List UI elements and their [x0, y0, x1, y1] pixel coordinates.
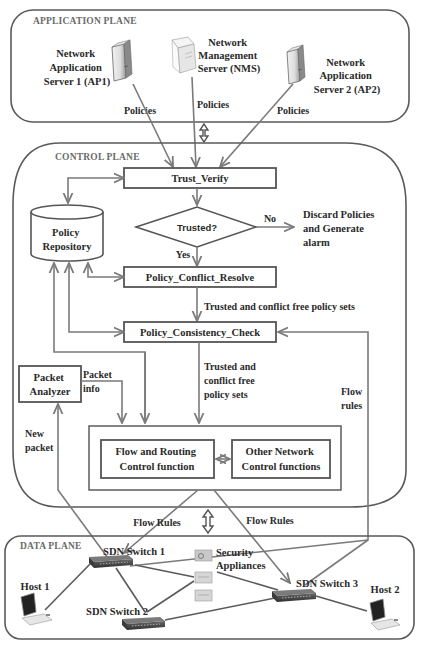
bidirectional-arrow-icon — [200, 124, 208, 142]
switch3-label: SDN Switch 3 — [296, 578, 358, 589]
application-plane: APPLICATION PLANE Network Application Se… — [11, 10, 409, 122]
policies-label-ap1: Policies — [124, 105, 156, 116]
nms-label: Network Management Server (NMS) — [198, 37, 261, 75]
flow-rules-right-label: Flow Rules — [246, 515, 294, 526]
ap1-label: Network Application Server 1 (AP1) — [44, 48, 111, 88]
desktop-computer-icon — [370, 599, 400, 630]
discard-policies-label: Discard Policies and Generate alarm — [303, 209, 377, 248]
no-label: No — [264, 213, 276, 224]
yes-label: Yes — [176, 249, 191, 260]
new-packet-label: New packet — [25, 428, 54, 453]
security-appliance-icon — [195, 572, 212, 583]
security-appliance-icon — [195, 590, 212, 601]
flow-rules-left-label: Flow Rules — [133, 517, 181, 528]
policy-consistency-check-label: Policy_Consistency_Check — [140, 327, 260, 338]
policy-conflict-resolve-label: Policy_Conflict_Resolve — [146, 272, 255, 283]
new-packet-arrow — [58, 404, 108, 558]
flow-rules-side-label: Flow rules — [341, 386, 365, 411]
ap2-label: Network Application Server 2 (AP2) — [314, 57, 381, 96]
desktop-computer-icon — [21, 593, 52, 625]
network-switch-icon — [272, 589, 316, 602]
control-plane-label: CONTROL PLANE — [55, 152, 140, 162]
sdn-architecture-diagram: APPLICATION PLANE Network Application Se… — [0, 0, 421, 648]
policies-arrow-ap2 — [220, 84, 293, 167]
trusted-decision-label: Trusted? — [177, 222, 217, 233]
security-appliances-label: Security Appliances — [216, 547, 266, 571]
server-tower-icon — [112, 40, 132, 81]
repository-conflict-resolve-link — [88, 263, 124, 277]
security-appliance-icon — [195, 550, 212, 561]
trust-verify-label: Trust_Verify — [171, 173, 229, 184]
host2-label: Host 2 — [371, 584, 400, 595]
host1-label: Host 1 — [21, 581, 50, 592]
switch2-label: SDN Switch 2 — [86, 606, 148, 617]
server-tower-icon — [287, 45, 305, 84]
trusted-conflict-free-label-2: Trusted and conflict free policy sets — [204, 361, 258, 400]
bidirectional-arrow-icon — [203, 510, 213, 533]
data-plane-label: DATA PLANE — [20, 541, 82, 551]
server-tower-icon — [172, 37, 196, 73]
network-switch-icon — [122, 617, 165, 630]
policies-label-ap2: Policies — [277, 105, 309, 116]
application-plane-label: APPLICATION PLANE — [33, 16, 137, 26]
repository-consistency-link — [69, 263, 124, 332]
policies-label-nms: Policies — [197, 99, 229, 110]
trusted-conflict-free-label-1: Trusted and conflict free policy sets — [204, 301, 355, 312]
switch1-label: SDN Switch 1 — [103, 546, 165, 557]
control-plane: CONTROL PLANE Trust_Verify Trusted? No D… — [13, 143, 406, 507]
repository-trust-verify-link — [68, 178, 124, 203]
